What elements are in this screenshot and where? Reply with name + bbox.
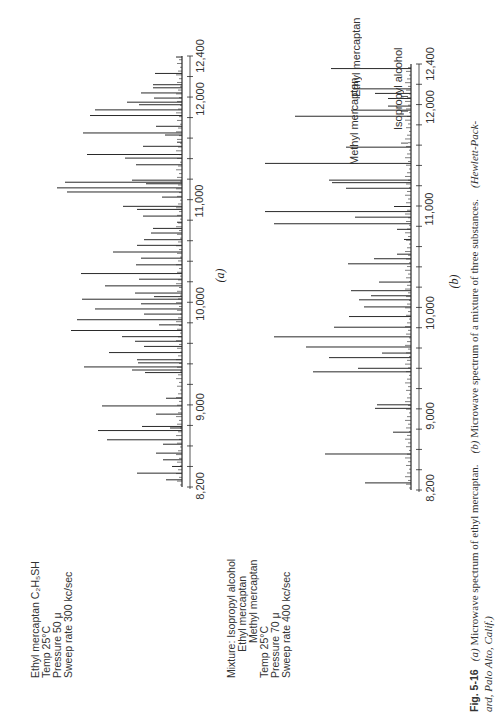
axis-b-tick-9000: 9,000	[424, 402, 436, 430]
axis-a-tick-12000: 12,000	[194, 82, 206, 116]
caption-credit-1: (Hewlett-Pack-	[468, 121, 480, 188]
caption-a-marker: (a)	[468, 648, 480, 661]
panel-a-info: Ethyl mercaptan C₂H₅SH Temp 25°C Pressur…	[30, 561, 74, 678]
axis-a-tick-9000: 9,000	[194, 393, 206, 421]
caption-line-1: Fig. 5-16 (a) Microwave spectrum of ethy…	[467, 121, 481, 712]
panel-b-label: (b)	[447, 275, 462, 289]
axis-b-tick-10000: 10,000	[424, 296, 436, 330]
axis-b-tick-8200: 8,200	[424, 474, 436, 502]
axis-a-tick-8200: 8,200	[194, 472, 206, 500]
axis-a-tick-11000: 11,000	[193, 185, 205, 218]
axis-b-tick-12400: 12,400	[424, 47, 436, 81]
axis-b-tick-12000: 12,000	[424, 90, 436, 124]
caption-b-marker: (b)	[468, 441, 480, 454]
annotation-isopropyl-alcohol: Isopropyl alcohol	[392, 47, 404, 130]
axis-b-tick-11000: 11,000	[423, 193, 435, 226]
panel-b-info: Mixture: Isopropyl alcohol Ethyl mercapt…	[226, 559, 292, 678]
caption-line-2: ard, Palo Alto, Calif.)	[481, 121, 495, 712]
caption-credit-2: ard, Palo Alto, Calif.)	[482, 616, 494, 712]
figure-number: Fig. 5-16	[468, 669, 480, 712]
figure-caption: Fig. 5-16 (a) Microwave spectrum of ethy…	[467, 121, 495, 712]
annotation-ethyl-mercaptan: Ethyl mercaptan	[350, 18, 362, 97]
panel-a-label: (a)	[213, 269, 228, 283]
caption-b-text: Microwave spectrum of a mixture of three…	[468, 199, 480, 438]
panel-a-info-line4: Sweep rate 300 kc/sec	[63, 561, 74, 678]
caption-a-text: Microwave spectrum of ethyl mercaptan.	[468, 464, 480, 645]
axis-a-tick-12400: 12,400	[194, 39, 206, 73]
panel-b-info-line6: Sweep rate 400 kc/sec	[281, 559, 292, 678]
axis-a-tick-10000: 10,000	[194, 287, 206, 321]
